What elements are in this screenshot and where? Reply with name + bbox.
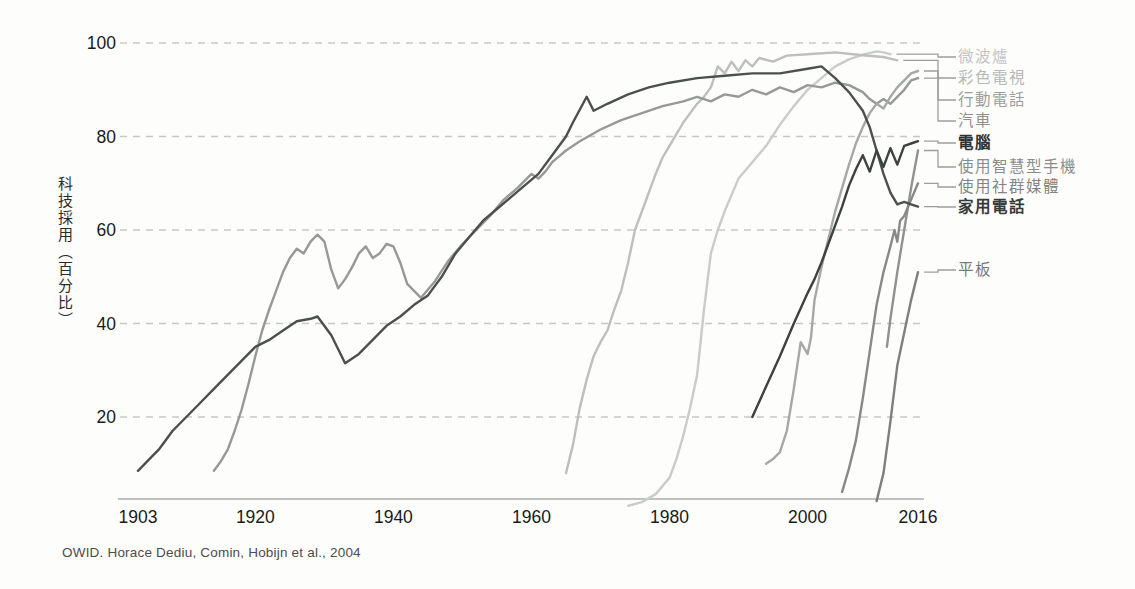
technology-adoption-chart: 科技採用（百分比） 10080604020 190319201940196019…	[0, 0, 1135, 589]
legend-label-car: 汽車	[958, 112, 992, 130]
legend-label-landline: 家用電話	[958, 198, 1026, 216]
y-tick-60: 60	[56, 220, 116, 240]
x-tick-2000: 2000	[773, 507, 843, 527]
legend-label-microwave: 微波爐	[958, 48, 1009, 66]
series-line-smartphone	[887, 151, 918, 347]
legend-connector-microwave	[896, 54, 956, 57]
x-tick-2016: 2016	[883, 507, 953, 527]
series-line-computer	[752, 141, 918, 417]
legend-label-mobile-phone: 行動電話	[958, 91, 1026, 109]
y-axis-title: 科技採用（百分比）	[53, 176, 75, 329]
series-line-color-tv	[566, 52, 897, 473]
y-tick-20: 20	[56, 407, 116, 427]
legend-label-computer: 電腦	[958, 134, 992, 152]
x-tick-1940: 1940	[358, 507, 428, 527]
series-line-landline	[138, 66, 918, 470]
legend-label-color-tv: 彩色電視	[958, 69, 1026, 87]
plot-area	[0, 0, 1135, 589]
y-tick-80: 80	[56, 127, 116, 147]
legend-label-tablet: 平板	[958, 261, 992, 279]
source-attribution: OWID. Horace Dediu, Comin, Hobijn et al.…	[62, 545, 361, 560]
y-tick-100: 100	[56, 33, 116, 53]
x-tick-1903: 1903	[103, 507, 173, 527]
legend-label-social-media: 使用社群媒體	[958, 178, 1060, 196]
legend-connector-social-media	[924, 183, 956, 187]
legend-connector-computer	[924, 141, 956, 143]
x-tick-1960: 1960	[496, 507, 566, 527]
y-tick-40: 40	[56, 314, 116, 334]
series-line-microwave	[628, 51, 890, 505]
legend-connector-tablet	[924, 270, 956, 272]
legend-connector-color-tv	[903, 60, 956, 78]
series-line-mobile-phone	[766, 71, 918, 464]
x-tick-1980: 1980	[635, 507, 705, 527]
legend-connector-smartphone	[924, 151, 956, 168]
legend-label-smartphone: 使用智慧型手機	[958, 158, 1077, 176]
series-line-tablet	[877, 272, 918, 501]
legend-connector-mobile-phone	[924, 71, 956, 100]
x-tick-1920: 1920	[220, 507, 290, 527]
